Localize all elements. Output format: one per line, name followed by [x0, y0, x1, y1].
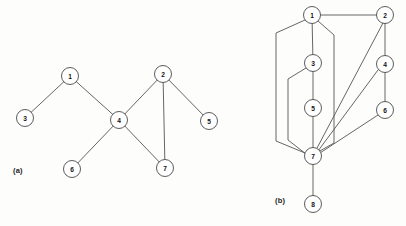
node-label: 2 — [383, 12, 387, 19]
node-label: 5 — [207, 118, 211, 125]
graph-node-7[interactable]: 7 — [305, 148, 322, 165]
graph-node-5[interactable]: 5 — [305, 100, 322, 117]
graph-edge — [70, 76, 119, 120]
graph-edge — [320, 115, 378, 153]
graph-edge — [276, 20, 305, 153]
panel-b-edges — [276, 15, 385, 204]
node-label: 8 — [311, 201, 315, 208]
node-label: 1 — [310, 12, 314, 19]
graph-edge — [25, 76, 70, 118]
graph-edge — [316, 23, 383, 150]
panel-b-caption: (b) — [275, 196, 285, 205]
node-label: 3 — [311, 60, 315, 67]
edges-layer — [25, 15, 385, 204]
graph-canvas: 123456712345678 — [0, 0, 406, 226]
graph-node-1[interactable]: 1 — [304, 7, 321, 24]
graph-node-7[interactable]: 7 — [157, 160, 174, 177]
graph-node-6[interactable]: 6 — [64, 161, 81, 178]
node-label: 4 — [117, 117, 121, 124]
panel-a-caption: (a) — [13, 166, 23, 175]
graph-node-3[interactable]: 3 — [17, 110, 34, 127]
node-label: 6 — [383, 107, 387, 114]
graph-node-2[interactable]: 2 — [155, 66, 172, 83]
node-label: 5 — [311, 105, 315, 112]
graph-edge — [72, 120, 119, 169]
graph-node-6[interactable]: 6 — [377, 102, 394, 119]
node-label: 6 — [70, 166, 74, 173]
node-label: 7 — [163, 165, 167, 172]
graph-figure: 123456712345678 (a) (b) — [0, 0, 406, 226]
graph-edge — [318, 70, 378, 151]
node-label: 3 — [23, 115, 27, 122]
node-label: 4 — [383, 61, 387, 68]
graph-node-4[interactable]: 4 — [377, 56, 394, 73]
graph-edge — [163, 74, 165, 168]
graph-node-2[interactable]: 2 — [377, 7, 394, 24]
graph-node-8[interactable]: 8 — [305, 196, 322, 213]
graph-edge — [163, 74, 209, 121]
graph-node-1[interactable]: 1 — [62, 68, 79, 85]
graph-node-5[interactable]: 5 — [201, 113, 218, 130]
node-label: 1 — [68, 73, 72, 80]
graph-edge — [119, 120, 165, 168]
graph-node-4[interactable]: 4 — [111, 112, 128, 129]
node-label: 7 — [311, 153, 315, 160]
node-label: 2 — [161, 71, 165, 78]
panel-a-nodes: 1234567 — [17, 66, 218, 178]
graph-node-3[interactable]: 3 — [305, 55, 322, 72]
graph-edge — [288, 68, 306, 154]
graph-edge — [119, 74, 163, 120]
